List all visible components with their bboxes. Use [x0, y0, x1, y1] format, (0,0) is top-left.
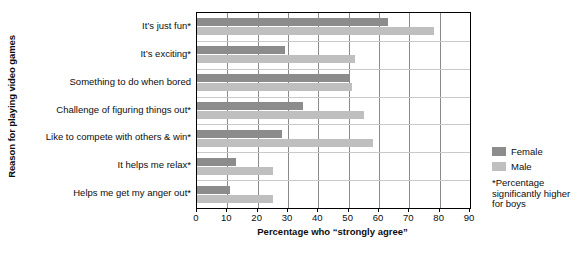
- category-label-3: Challenge of figuring things out*: [56, 104, 191, 115]
- gridline: [379, 13, 380, 208]
- bar-female-5: [197, 158, 236, 166]
- bar-male-2: [197, 83, 352, 91]
- legend-swatch-female: [492, 147, 506, 156]
- legend-swatch-male: [492, 162, 506, 171]
- x-axis-tick-label-90: 90: [457, 212, 481, 223]
- bar-female-2: [197, 74, 349, 82]
- gridline: [440, 13, 441, 208]
- band-separator: [197, 69, 470, 70]
- category-label-2: Something to do when bored: [70, 76, 191, 87]
- bar-female-6: [197, 186, 230, 194]
- x-axis-tick-label-60: 60: [366, 212, 390, 223]
- y-axis-label: Reason for playing video games: [6, 35, 17, 178]
- bar-male-0: [197, 27, 434, 35]
- bar-male-5: [197, 167, 273, 175]
- bar-female-4: [197, 130, 282, 138]
- bar-female-3: [197, 102, 303, 110]
- x-axis-tick-label-0: 0: [184, 212, 208, 223]
- bar-male-6: [197, 195, 273, 203]
- bar-chart: Reason for playing video games It’s just…: [0, 0, 580, 255]
- band-separator: [197, 180, 470, 181]
- legend: Female Male: [492, 146, 578, 176]
- x-axis-label: Percentage who “strongly agree”: [196, 226, 469, 237]
- category-label-4: Like to compete with others & win*: [46, 131, 191, 142]
- x-axis-tick-label-30: 30: [275, 212, 299, 223]
- footnote-line-3: for boys: [492, 199, 580, 210]
- bar-male-4: [197, 139, 373, 147]
- legend-label-female: Female: [511, 146, 543, 157]
- x-axis-tick-label-80: 80: [427, 212, 451, 223]
- x-axis-tick-label-10: 10: [214, 212, 238, 223]
- legend-item-male: Male: [492, 161, 578, 172]
- x-axis-tick-label-20: 20: [245, 212, 269, 223]
- category-label-1: It’s exciting*: [140, 48, 191, 59]
- category-label-6: Helps me get my anger out*: [73, 187, 191, 198]
- y-axis-label-container: Reason for playing video games: [0, 0, 22, 213]
- footnote: *Percentage significantly higher for boy…: [492, 178, 580, 210]
- bar-male-3: [197, 111, 364, 119]
- bar-male-1: [197, 55, 355, 63]
- legend-item-female: Female: [492, 146, 578, 157]
- x-axis-tick-label-50: 50: [336, 212, 360, 223]
- band-separator: [197, 97, 470, 98]
- x-axis-tick-label-70: 70: [396, 212, 420, 223]
- footnote-line-1: *Percentage: [492, 178, 580, 189]
- x-axis-tick-label-40: 40: [305, 212, 329, 223]
- bar-female-0: [197, 18, 388, 26]
- category-label-0: It’s just fun*: [142, 20, 191, 31]
- y-axis-tick-labels: It’s just fun*It’s exciting*Something to…: [22, 12, 194, 207]
- plot-area: [196, 12, 471, 209]
- legend-label-male: Male: [511, 161, 532, 172]
- category-label-5: It helps me relax*: [118, 159, 191, 170]
- band-separator: [197, 124, 470, 125]
- gridline: [409, 13, 410, 208]
- band-separator: [197, 152, 470, 153]
- bar-female-1: [197, 46, 285, 54]
- band-separator: [197, 41, 470, 42]
